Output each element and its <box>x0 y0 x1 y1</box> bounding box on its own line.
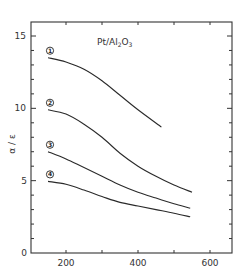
y-tick-label: 10 <box>15 103 27 113</box>
y-tick-label: 0 <box>21 248 27 258</box>
plot-frame <box>31 22 232 253</box>
plot-border <box>31 22 232 253</box>
y-axis-label: α / ε <box>7 134 17 154</box>
series-marker-2: 2 <box>46 99 53 107</box>
svg-text:4: 4 <box>48 170 52 177</box>
series-marker-3: 3 <box>46 141 53 149</box>
series-line-2 <box>48 110 192 192</box>
series-line-1 <box>48 58 161 127</box>
data-series <box>48 58 192 217</box>
axis-ticks <box>31 22 232 253</box>
y-tick-label: 15 <box>15 31 26 41</box>
svg-text:3: 3 <box>48 141 52 148</box>
series-marker-1: 1 <box>46 47 53 55</box>
x-tick-label: 400 <box>129 258 146 268</box>
line-chart: 200400600051015 1234 Pt/Al2O3 α / ε <box>0 0 244 278</box>
x-tick-label: 200 <box>57 258 74 268</box>
svg-text:2: 2 <box>48 99 52 106</box>
series-marker-4: 4 <box>46 170 53 177</box>
series-line-3 <box>48 152 190 209</box>
tick-labels: 200400600051015 <box>15 31 219 268</box>
series-markers: 1234 <box>46 47 53 178</box>
series-line-4 <box>48 181 190 216</box>
chart-title: Pt/Al2O3 <box>97 37 133 48</box>
svg-text:1: 1 <box>48 47 52 54</box>
x-tick-label: 600 <box>201 258 218 268</box>
y-tick-label: 5 <box>21 176 27 186</box>
